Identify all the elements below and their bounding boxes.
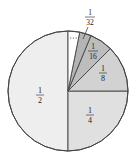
- pie-wedges: [8, 31, 128, 151]
- geometric-series-pie-chart: 1 2 1 4 1 8 1 16 1 32: [0, 0, 136, 159]
- svg-text:32: 32: [86, 18, 94, 27]
- svg-text:1: 1: [38, 86, 42, 95]
- svg-text:1: 1: [101, 64, 105, 73]
- svg-text:16: 16: [89, 52, 97, 61]
- svg-text:4: 4: [88, 116, 92, 125]
- svg-text:1: 1: [88, 8, 92, 17]
- svg-text:8: 8: [101, 74, 105, 83]
- wedge-1-4: [68, 91, 128, 151]
- label-thirty-second: 1 32: [85, 8, 95, 27]
- svg-text:1: 1: [91, 42, 95, 51]
- svg-text:2: 2: [38, 96, 42, 105]
- svg-text:1: 1: [88, 106, 92, 115]
